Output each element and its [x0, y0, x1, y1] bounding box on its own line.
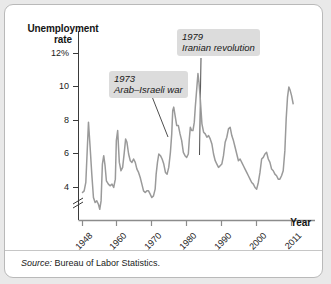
source-note: Source: Bureau of Labor Statistics. [21, 258, 160, 268]
footer-divider [5, 250, 323, 251]
y-tick-label-8: 8 [39, 115, 69, 125]
y-tick-label-4: 4 [39, 182, 69, 192]
source-label: Source: [21, 258, 52, 268]
callout-iranian-revolution: 1979 Iranian revolution [177, 29, 260, 56]
callout-year-1973: 1973 [114, 73, 183, 84]
y-tick-label-12: 12% [39, 48, 69, 58]
callout-arab-israeli-war: 1973 Arab–Israeli war [109, 71, 188, 98]
figure-container: Unemployment rate Year 12% 10 8 6 4 1948… [4, 4, 323, 278]
y-tick-label-6: 6 [39, 148, 69, 158]
callout-event-arab-israeli-war: Arab–Israeli war [114, 84, 183, 95]
callout-year-1979: 1979 [182, 31, 255, 42]
chart-plot-area: Unemployment rate Year 12% 10 8 6 4 1948… [5, 5, 323, 241]
source-text: Bureau of Labor Statistics. [55, 258, 161, 268]
x-axis-title: Year [277, 217, 311, 228]
y-axis-title: Unemployment rate [25, 23, 101, 45]
callout-event-iranian-revolution: Iranian revolution [182, 42, 255, 53]
leader-line-arab-israeli-war [151, 94, 168, 137]
y-tick-label-10: 10 [39, 81, 69, 91]
